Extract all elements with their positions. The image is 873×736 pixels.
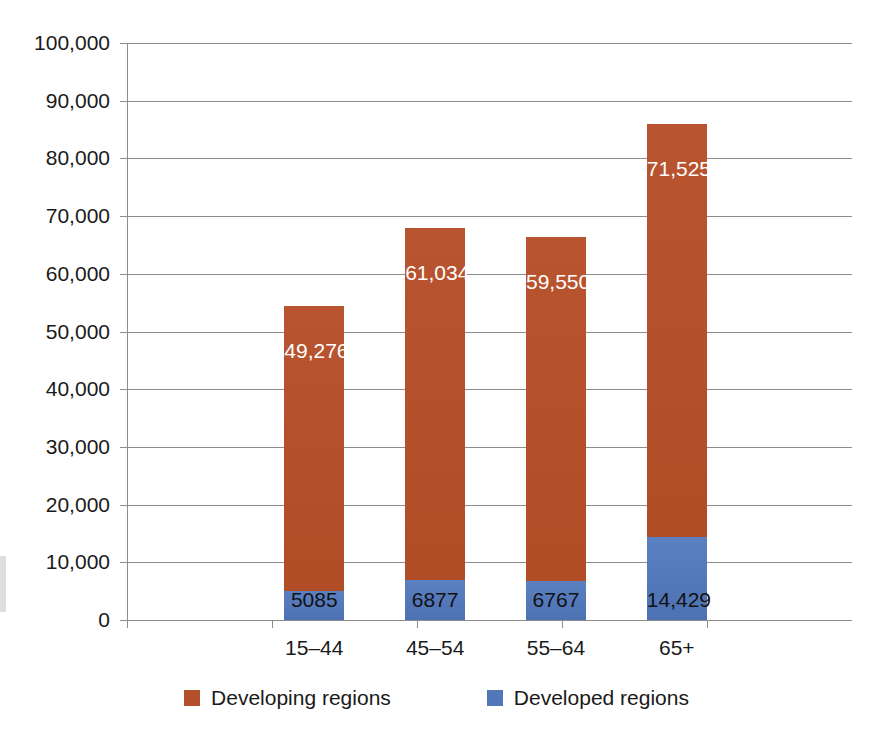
bar-value-label: 71,525 [647,158,707,179]
x-axis-tick [272,620,273,628]
legend-label: Developing regions [211,686,391,710]
y-axis-label: 70,000 [0,204,110,228]
grid-line [127,447,852,448]
stacked-bar-chart: 100,00090,00080,00070,00060,00050,00040,… [0,0,873,736]
legend-label: Developed regions [514,686,689,710]
x-axis-tick [417,620,418,628]
bar-value-label: 14,429 [647,589,707,610]
x-axis-tick [707,620,708,628]
x-axis-label: 45–54 [374,636,496,660]
y-axis-label: 100,000 [0,31,110,55]
legend-swatch-icon [184,690,200,706]
y-axis-label: 0 [0,608,110,632]
y-axis-tick [120,43,127,44]
bar-stack[interactable]: 71,52514,429 [647,124,707,620]
y-axis-tick [120,332,127,333]
bar-value-label: 6767 [526,589,586,610]
grid-line [127,43,852,44]
bar-segment-developed[interactable]: 6877 [405,580,465,620]
grid-line [127,620,852,621]
chart-legend: Developing regionsDeveloped regions [0,686,873,710]
grid-line [127,101,852,102]
bar-segment-developing[interactable]: 71,525 [647,124,707,537]
bar-value-label: 61,034 [405,262,465,283]
grid-line [127,274,852,275]
bar-segment-developing[interactable]: 61,034 [405,228,465,580]
y-axis-tick [120,447,127,448]
bar-segment-developed[interactable]: 14,429 [647,537,707,620]
plot-area: 49,276508561,034687759,550676771,52514,4… [127,43,852,620]
grid-line [127,332,852,333]
x-axis-label: 55–64 [495,636,617,660]
y-axis-label: 50,000 [0,320,110,344]
legend-item[interactable]: Developing regions [184,686,391,710]
y-axis-label: 80,000 [0,146,110,170]
bar-segment-developing[interactable]: 49,276 [284,306,344,590]
y-axis-label: 40,000 [0,377,110,401]
grid-line [127,216,852,217]
bar-stack[interactable]: 59,5506767 [526,237,586,620]
y-axis-label: 30,000 [0,435,110,459]
bar-stack[interactable]: 49,2765085 [284,306,344,620]
y-axis-label: 90,000 [0,89,110,113]
bar-value-label: 49,276 [284,340,344,361]
grid-line [127,389,852,390]
bar-segment-developed[interactable]: 6767 [526,581,586,620]
grid-line [127,562,852,563]
y-axis-tick [120,389,127,390]
grid-line [127,505,852,506]
y-axis-label: 10,000 [0,550,110,574]
y-axis-tick [120,101,127,102]
y-axis-tick [120,216,127,217]
bar-segment-developing[interactable]: 59,550 [526,237,586,581]
y-axis-tick [120,620,127,621]
legend-item[interactable]: Developed regions [487,686,689,710]
y-axis-tick [120,562,127,563]
bar-value-label: 6877 [405,589,465,610]
legend-swatch-icon [487,690,503,706]
x-axis-label: 65+ [616,636,738,660]
y-axis-tick [120,158,127,159]
y-axis-tick [120,274,127,275]
y-axis-label: 20,000 [0,493,110,517]
y-axis-label: 60,000 [0,262,110,286]
bar-stack[interactable]: 61,0346877 [405,228,465,620]
bar-value-label: 59,550 [526,271,586,292]
bar-segment-developed[interactable]: 5085 [284,591,344,620]
grid-line [127,158,852,159]
x-axis-tick [127,620,128,628]
bar-value-label: 5085 [284,589,344,610]
x-axis-label: 15–44 [253,636,375,660]
y-axis-tick [120,505,127,506]
x-axis-tick [562,620,563,628]
